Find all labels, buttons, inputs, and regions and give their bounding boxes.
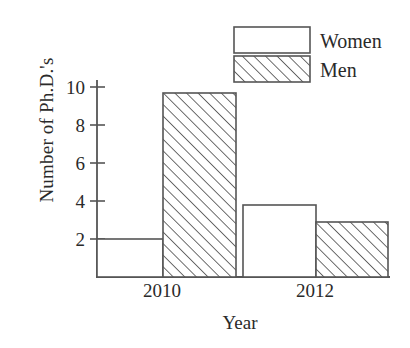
bar-2010-women (97, 239, 163, 277)
bar-chart: Number of Ph.D.'s 10 8 6 4 2 2010 2012 Y… (0, 0, 410, 348)
legend-label-men: Men (320, 60, 357, 80)
bar-2012-men (316, 222, 388, 277)
legend-swatch-women (234, 27, 310, 53)
legend-swatch-men (234, 56, 310, 82)
legend-label-women: Women (320, 31, 382, 51)
plot-area (0, 0, 410, 348)
bar-2012-women (243, 205, 316, 277)
bar-2010-men (163, 93, 236, 277)
